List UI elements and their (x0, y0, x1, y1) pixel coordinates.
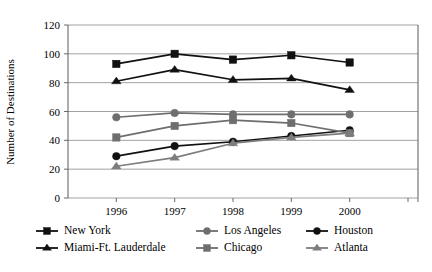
data-point-marker (204, 245, 211, 252)
data-series (112, 65, 355, 92)
legend-item[interactable]: Los Angeles (196, 224, 282, 237)
legend-item[interactable]: Atlanta (306, 241, 368, 253)
x-axis-ticks: 19961997199819992000 (105, 198, 418, 217)
y-tick-label: 80 (49, 77, 61, 89)
data-point-marker (346, 59, 353, 66)
data-series (112, 129, 355, 169)
y-tick-label: 100 (44, 48, 61, 60)
data-series (113, 116, 354, 141)
x-tick-label: 1997 (164, 205, 187, 217)
data-point-marker (229, 116, 236, 123)
x-tick-label: 1998 (222, 205, 245, 217)
data-point-marker (113, 113, 121, 121)
legend-label: Miami-Ft. Lauderdale (64, 241, 166, 253)
data-point-marker (288, 119, 295, 126)
y-axis-title: Number of Destinations (4, 59, 16, 165)
data-point-marker (314, 228, 321, 235)
legend-label: Chicago (224, 241, 263, 254)
data-point-marker (171, 50, 178, 57)
line-chart: 020406080100120 19961997199819992000 Num… (0, 0, 432, 272)
data-point-marker (171, 109, 179, 117)
legend-label: New York (64, 224, 111, 236)
legend-item[interactable]: Miami-Ft. Lauderdale (36, 241, 166, 253)
x-tick-label: 1999 (280, 205, 303, 217)
data-point-marker (113, 134, 120, 141)
gridlines (68, 25, 418, 198)
y-tick-label: 60 (49, 106, 61, 118)
chart-legend: New YorkLos AngelesHoustonMiami-Ft. Laud… (36, 224, 373, 254)
legend-item[interactable]: Houston (306, 224, 373, 236)
data-point-marker (171, 142, 179, 150)
data-series (113, 50, 354, 67)
legend-item[interactable]: Chicago (196, 241, 263, 254)
data-point-marker (44, 228, 51, 235)
data-point-marker (170, 65, 180, 72)
data-point-marker (288, 111, 296, 119)
data-point-marker (171, 122, 178, 129)
y-tick-label: 20 (49, 163, 61, 175)
data-point-marker (113, 152, 121, 160)
data-point-marker (287, 74, 297, 81)
chart-figure: 020406080100120 19961997199819992000 Num… (0, 0, 432, 272)
y-tick-label: 120 (44, 19, 61, 31)
data-point-marker (229, 56, 236, 63)
legend-label: Atlanta (334, 241, 368, 253)
data-point-marker (288, 52, 295, 59)
y-axis-ticks: 020406080100120 (44, 19, 69, 204)
data-point-marker (204, 228, 211, 235)
x-tick-label: 1996 (105, 205, 128, 217)
legend-label: Los Angeles (224, 224, 282, 237)
data-point-marker (113, 60, 120, 67)
legend-label: Houston (334, 224, 373, 236)
y-tick-label: 40 (49, 134, 61, 146)
data-series-group (112, 50, 355, 169)
y-tick-label: 0 (55, 192, 61, 204)
legend-item[interactable]: New York (36, 224, 111, 236)
x-tick-label: 2000 (339, 205, 362, 217)
data-point-marker (346, 111, 354, 119)
